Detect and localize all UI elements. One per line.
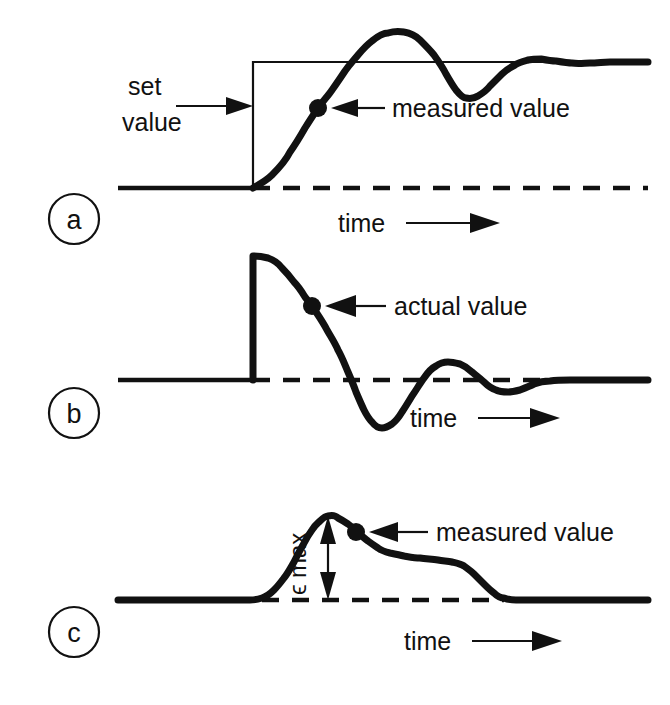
measured-value-arrow-icon bbox=[331, 99, 358, 117]
set-value-label-line1: set bbox=[128, 72, 161, 100]
panel-b-time-axis: time bbox=[410, 404, 560, 432]
panel-a-time-axis: time bbox=[338, 209, 500, 237]
panel-c-measured-value-dot bbox=[347, 523, 365, 541]
panel-c-measured-value-annotation: measured value bbox=[369, 518, 614, 546]
time-label: time bbox=[404, 627, 451, 655]
panel-b-marker-label: b bbox=[66, 399, 81, 429]
panel-b-actual-value-annotation: actual value bbox=[325, 292, 527, 320]
panel-b: actual value time b bbox=[49, 256, 648, 438]
response-curves-diagram: set value measured value time a bbox=[0, 0, 670, 705]
set-value-arrow-icon bbox=[226, 97, 253, 115]
time-arrow-icon bbox=[530, 408, 560, 428]
panel-a-marker: a bbox=[49, 194, 99, 244]
figure-root: set value measured value time a bbox=[0, 0, 670, 705]
panel-c-time-axis: time bbox=[404, 627, 562, 655]
panel-a-measured-value-annotation: measured value bbox=[331, 94, 570, 122]
panel-a-measured-value-dot bbox=[309, 99, 327, 117]
panel-c-marker: c bbox=[49, 607, 99, 657]
set-value-label-line2: value bbox=[122, 108, 182, 136]
measured-value-arrow-icon bbox=[369, 522, 398, 542]
time-label: time bbox=[338, 209, 385, 237]
epsilon-max-subscript-label: max bbox=[284, 533, 311, 578]
time-label: time bbox=[410, 404, 457, 432]
panel-b-actual-value-dot bbox=[303, 297, 321, 315]
epsilon-symbol-label: ϵ bbox=[284, 584, 311, 595]
panel-c-marker-label: c bbox=[67, 618, 81, 648]
panel-b-marker: b bbox=[49, 388, 99, 438]
panel-a-set-value-annotation: set value bbox=[122, 72, 253, 136]
actual-value-label: actual value bbox=[394, 292, 527, 320]
actual-value-arrow-icon bbox=[325, 295, 356, 317]
measured-value-label: measured value bbox=[392, 94, 570, 122]
panel-c: ϵ max measured value time c bbox=[49, 516, 648, 657]
time-arrow-icon bbox=[470, 213, 500, 233]
panel-b-actual-value-curve bbox=[253, 256, 648, 428]
epsilon-max-arrow-down-icon bbox=[320, 572, 336, 600]
panel-a: set value measured value time a bbox=[49, 31, 648, 244]
panel-a-marker-label: a bbox=[66, 205, 82, 235]
time-arrow-icon bbox=[532, 631, 562, 651]
measured-value-label: measured value bbox=[436, 518, 614, 546]
